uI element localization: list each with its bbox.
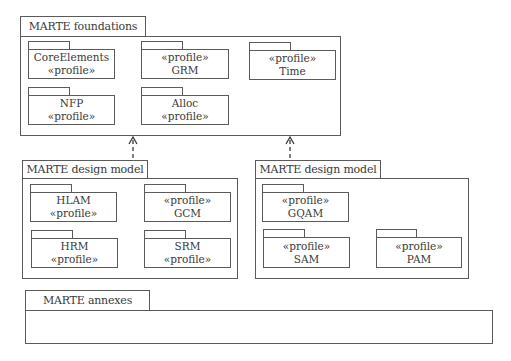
package-pam: «profile» PAM	[376, 237, 462, 268]
package-stereotype: «profile»	[48, 110, 96, 123]
package-time: «profile» Time	[249, 50, 336, 80]
package-stereotype: «profile»	[48, 64, 96, 77]
package-gcm: «profile» GCM	[144, 192, 231, 222]
annexes-title: MARTE annexes	[43, 294, 132, 307]
annexes-container	[25, 310, 493, 344]
package-alloc: Alloc «profile»	[141, 95, 229, 125]
package-coreelements: CoreElements «profile»	[28, 49, 115, 79]
design-left-tab: MARTE design model	[22, 160, 148, 179]
package-sam: «profile» SAM	[263, 237, 350, 268]
dependency-arrow-left	[129, 137, 137, 160]
package-stereotype: «profile»	[283, 240, 331, 253]
design-right-title: MARTE design model	[259, 163, 376, 176]
foundations-tab: MARTE foundations	[20, 16, 146, 37]
package-stereotype: «profile»	[282, 194, 330, 207]
package-stereotype: «profile»	[164, 194, 212, 207]
package-nfp: NFP «profile»	[28, 95, 115, 125]
annexes-tab: MARTE annexes	[25, 290, 150, 311]
package-name: Alloc	[172, 97, 199, 110]
design-right-tab: MARTE design model	[255, 160, 381, 179]
package-hlam: HLAM «profile»	[30, 192, 117, 222]
package-stereotype: «profile»	[161, 110, 209, 123]
package-name: NFP	[60, 97, 84, 110]
design-left-title: MARTE design model	[26, 163, 143, 176]
package-name: CoreElements	[34, 51, 109, 64]
package-grm: «profile» GRM	[141, 49, 229, 79]
package-stereotype: «profile»	[395, 240, 443, 253]
package-stereotype: «profile»	[269, 52, 317, 65]
package-stereotype: «profile»	[164, 253, 212, 266]
package-name: HRM	[61, 240, 89, 253]
package-gqam: «profile» GQAM	[262, 192, 349, 222]
package-stereotype: «profile»	[161, 51, 209, 64]
foundations-title: MARTE foundations	[29, 20, 138, 33]
package-stereotype: «profile»	[51, 253, 99, 266]
package-name: GRM	[171, 64, 198, 77]
package-srm: SRM «profile»	[144, 238, 231, 268]
package-name: GQAM	[288, 207, 323, 220]
package-name: Time	[279, 65, 306, 78]
package-name: PAM	[407, 253, 431, 266]
package-name: SRM	[175, 240, 201, 253]
package-name: GCM	[174, 207, 201, 220]
package-name: SAM	[294, 253, 320, 266]
dependency-arrow-right	[286, 137, 294, 160]
package-stereotype: «profile»	[50, 207, 98, 220]
package-name: HLAM	[56, 194, 90, 207]
package-hrm: HRM «profile»	[31, 238, 118, 268]
